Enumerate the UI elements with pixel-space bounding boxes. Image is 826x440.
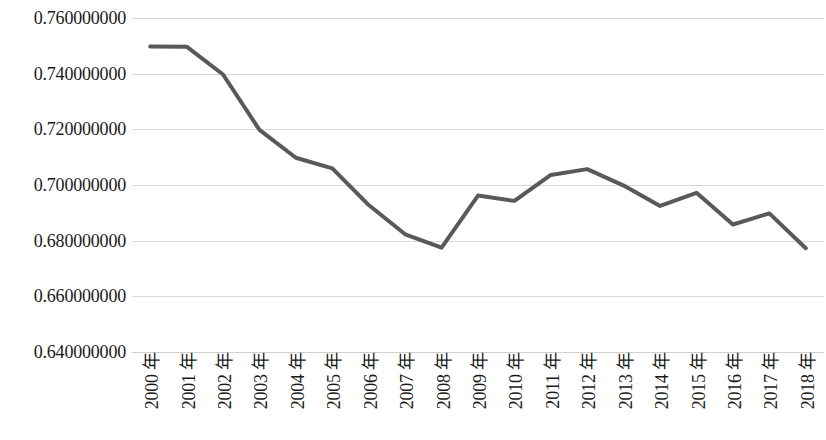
x-axis-tick-label: 2008 年 (429, 352, 455, 409)
x-axis-tick-label: 2010 年 (501, 352, 527, 409)
x-axis-tick-label: 2004 年 (283, 352, 309, 409)
series-polyline (150, 46, 806, 248)
x-axis-tick-label: 2006 年 (356, 352, 382, 409)
y-axis-tick-label: 0.660000000 (34, 286, 126, 307)
x-axis-tick: 2012 年 (575, 352, 599, 438)
x-axis-tick-label: 2017 年 (756, 352, 782, 409)
y-axis-tick-label: 0.720000000 (34, 119, 126, 140)
x-axis-tick-label: 2015 年 (684, 352, 710, 409)
x-axis-tick: 2016 年 (721, 352, 745, 438)
x-axis-tick-label: 2009 年 (465, 352, 491, 409)
y-axis-tick-label: 0.740000000 (34, 63, 126, 84)
x-axis-tick-label: 2007 年 (392, 352, 418, 409)
y-axis-tick-label: 0.700000000 (34, 175, 126, 196)
x-axis: 2000 年2001 年2002 年2003 年2004 年2005 年2006… (132, 352, 824, 440)
x-axis-tick: 2008 年 (430, 352, 454, 438)
plot-area (132, 18, 824, 352)
x-axis-tick-label: 2002 年 (210, 352, 236, 409)
x-axis-tick: 2006 年 (357, 352, 381, 438)
x-axis-tick: 2010 年 (502, 352, 526, 438)
x-axis-tick: 2000 年 (138, 352, 162, 438)
y-axis-tick-label: 0.640000000 (34, 342, 126, 363)
x-axis-tick-label: 2013 年 (611, 352, 637, 409)
x-axis-tick: 2007 年 (393, 352, 417, 438)
x-axis-tick-label: 2018 年 (793, 352, 819, 409)
x-axis-tick: 2011 年 (539, 352, 563, 438)
y-axis-tick-label: 0.760000000 (34, 8, 126, 29)
x-axis-tick-label: 2000 年 (137, 352, 163, 409)
x-axis-tick: 2014 年 (648, 352, 672, 438)
x-axis-tick-label: 2005 年 (319, 352, 345, 409)
x-axis-tick: 2017 年 (757, 352, 781, 438)
chart-page: 0.6400000000.6600000000.6800000000.70000… (0, 0, 826, 440)
x-axis-tick: 2013 年 (612, 352, 636, 438)
x-axis-tick: 2009 年 (466, 352, 490, 438)
x-axis-tick: 2015 年 (685, 352, 709, 438)
x-axis-tick: 2001 年 (175, 352, 199, 438)
y-axis-tick-label: 0.680000000 (34, 230, 126, 251)
x-axis-tick-label: 2011 年 (538, 352, 564, 409)
x-axis-tick-label: 2001 年 (174, 352, 200, 409)
x-axis-tick: 2002 年 (211, 352, 235, 438)
y-axis: 0.6400000000.6600000000.6800000000.70000… (0, 0, 132, 440)
x-axis-tick: 2004 年 (284, 352, 308, 438)
x-axis-tick-label: 2012 年 (574, 352, 600, 409)
x-axis-tick-label: 2003 年 (246, 352, 272, 409)
line-series (132, 18, 824, 352)
x-axis-tick-label: 2016 年 (720, 352, 746, 409)
x-axis-tick: 2018 年 (794, 352, 818, 438)
x-axis-tick: 2003 年 (247, 352, 271, 438)
x-axis-tick: 2005 年 (320, 352, 344, 438)
x-axis-tick-label: 2014 年 (647, 352, 673, 409)
